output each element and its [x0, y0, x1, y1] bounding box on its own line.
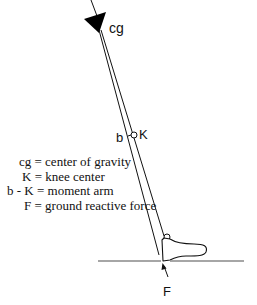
moment-arm-line [128, 135, 131, 136]
shoe-icon [162, 238, 207, 261]
legend-row-cg: cg = center of gravity [0, 155, 160, 170]
knee-center-marker [131, 132, 137, 138]
force-label: F [163, 284, 171, 299]
b-label: b [116, 130, 123, 145]
legend-text-cg: cg = center of gravity [19, 155, 131, 170]
legend-text-force: F = ground reactive force [24, 199, 156, 214]
center-of-gravity-marker [84, 12, 106, 33]
legend-row-moment-arm: b - K = moment arm [0, 184, 160, 199]
cg-label: cg [109, 20, 124, 36]
leg-moment-diagram: cg K b F [0, 0, 257, 305]
force-arrow-head-icon [162, 263, 167, 270]
knee-label: K [139, 127, 148, 142]
legend-text-knee: K = knee center [22, 170, 105, 185]
legend-text-moment-arm: b - K = moment arm [7, 184, 114, 199]
legend-row-force: F = ground reactive force [0, 199, 160, 214]
legend: cg = center of gravity K = knee center b… [0, 155, 160, 213]
legend-row-knee: K = knee center [0, 170, 160, 185]
leg-line-left [99, 30, 159, 255]
